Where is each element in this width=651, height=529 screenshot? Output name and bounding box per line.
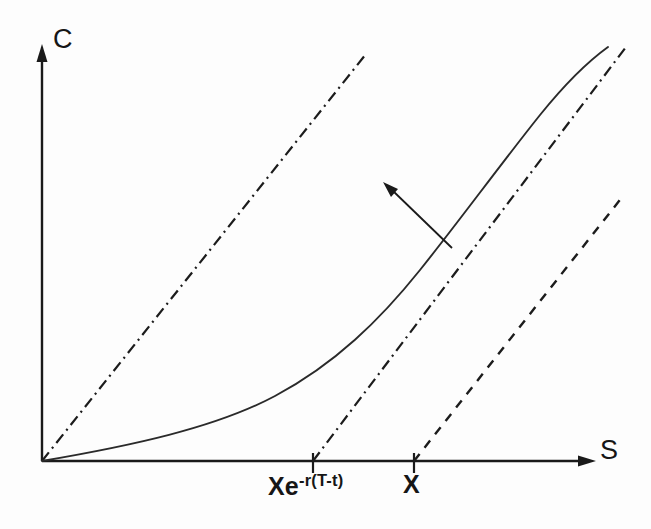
call-value-curve bbox=[42, 47, 608, 461]
pointer-arrow bbox=[383, 182, 452, 248]
x-axis-arrowhead bbox=[578, 456, 596, 467]
intrinsic-value-line bbox=[414, 196, 623, 461]
y-axis-arrowhead bbox=[37, 44, 48, 62]
tick-label-discounted-exponent: -r(T-t) bbox=[299, 471, 343, 489]
option-value-figure: C S Xe-r(T-t) X bbox=[0, 0, 651, 529]
x-axis bbox=[42, 456, 596, 467]
tick-label-strike: X bbox=[403, 472, 420, 497]
tick-label-discounted-strike: Xe-r(T-t) bbox=[268, 472, 343, 499]
y-axis-label: C bbox=[53, 26, 73, 53]
y-axis bbox=[37, 44, 48, 461]
x-axis-label: S bbox=[600, 437, 618, 464]
lower-bound-discounted-line bbox=[313, 47, 626, 461]
tick-label-strike-base: X bbox=[403, 470, 420, 498]
tick-label-discounted-base: Xe bbox=[268, 472, 299, 500]
figure-canvas bbox=[0, 0, 651, 529]
upper-bound-line bbox=[42, 54, 366, 461]
